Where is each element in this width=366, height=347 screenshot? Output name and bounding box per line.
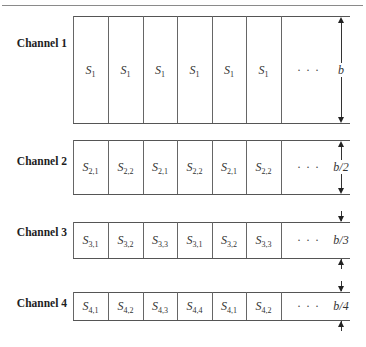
slot-subscript: 4,1 (89, 306, 99, 315)
time-slot: S2,2 (246, 159, 281, 180)
slot-subscript: 4,2 (262, 306, 272, 315)
slot-subscript: 1 (127, 70, 131, 79)
time-slot: S2,1 (212, 159, 246, 180)
slot-subscript: 1 (265, 70, 269, 79)
slot-subscript: 2,2 (193, 167, 203, 176)
arrow-up-icon (338, 141, 344, 147)
slot-subscript: 4,1 (227, 306, 237, 315)
frame-bottom-line (73, 258, 350, 259)
arrow-down-icon (338, 216, 344, 222)
arrow-up-icon (338, 259, 344, 265)
time-slot: S3,3 (246, 232, 281, 253)
time-slot: S1 (143, 62, 177, 83)
slot-subscript: 2,1 (89, 167, 99, 176)
dimension-label: b (326, 63, 356, 77)
slot-subscript: 1 (196, 70, 200, 79)
slot-subscript: 4,4 (193, 306, 203, 315)
slot-subscript: 2,1 (227, 167, 237, 176)
time-slot: S1 (108, 62, 143, 83)
arrow-down-icon (338, 188, 344, 194)
channel-label: Channel 3 (0, 226, 67, 238)
slot-subscript: 1 (161, 70, 165, 79)
time-slot: S1 (177, 62, 212, 83)
time-slot: S4,2 (246, 298, 281, 319)
slot-subscript: 2,2 (262, 167, 272, 176)
dimension-label: b/4 (326, 299, 356, 313)
time-slot: S1 (246, 62, 281, 83)
slot-subscript: 1 (92, 70, 96, 79)
time-slot: S2,1 (73, 159, 108, 180)
arrow-up-icon (338, 321, 344, 327)
arrow-down-icon (338, 117, 344, 123)
time-slot: S1 (212, 62, 246, 83)
time-slot: S3,1 (73, 232, 108, 253)
slot-subscript: 4,2 (124, 306, 134, 315)
time-slot: S3,2 (108, 232, 143, 253)
time-slot: S3,2 (212, 232, 246, 253)
time-slot: S4,1 (212, 298, 246, 319)
slot-subscript: 3,2 (124, 240, 134, 249)
time-slot: S1 (73, 62, 108, 83)
slot-subscript: 3,1 (193, 240, 203, 249)
slot-subscript: 1 (230, 70, 234, 79)
slot-subscript: 4,3 (158, 306, 168, 315)
time-slot: S3,1 (177, 232, 212, 253)
frame-bottom-line (73, 194, 350, 195)
time-slot: S4,4 (177, 298, 212, 319)
dimension-label: b/2 (326, 160, 356, 174)
channel-label: Channel 2 (0, 155, 67, 167)
frame-bottom-line (73, 123, 350, 124)
slot-subscript: 3,1 (89, 240, 99, 249)
top-rule (2, 5, 363, 6)
frame-bottom-line (73, 320, 350, 321)
time-slot: S2,1 (143, 159, 177, 180)
time-slot: S2,2 (108, 159, 143, 180)
arrow-down-icon (338, 286, 344, 292)
dimension-label: b/3 (326, 233, 356, 247)
channel-label: Channel 1 (0, 37, 67, 49)
time-slot: S3,3 (143, 232, 177, 253)
arrow-up-icon (338, 17, 344, 23)
channel-label: Channel 4 (0, 297, 67, 309)
slot-subscript: 3,3 (262, 240, 272, 249)
slot-subscript: 2,2 (124, 167, 134, 176)
slot-subscript: 3,3 (158, 240, 168, 249)
time-slot: S4,2 (108, 298, 143, 319)
slot-subscript: 2,1 (158, 167, 168, 176)
slot-subscript: 3,2 (227, 240, 237, 249)
time-slot: S2,2 (177, 159, 212, 180)
time-slot: S4,1 (73, 298, 108, 319)
time-slot: S4,3 (143, 298, 177, 319)
